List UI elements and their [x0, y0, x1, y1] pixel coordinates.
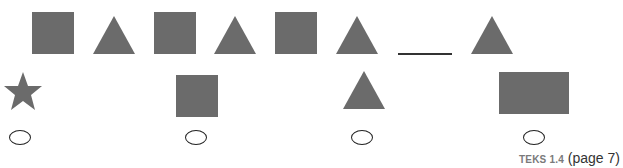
footer-reference: TEKS 1.4 (page 7) — [519, 150, 620, 166]
page-reference: (page 7) — [568, 150, 620, 166]
teks-standard: TEKS 1.4 — [519, 154, 564, 165]
pattern-triangle-4 — [471, 16, 513, 54]
choice-square-bubble[interactable] — [185, 130, 207, 145]
choice-star-icon — [2, 70, 44, 112]
choice-triangle-bubble[interactable] — [351, 130, 373, 145]
choice-rectangle-bubble[interactable] — [523, 130, 545, 145]
pattern-triangle-3 — [336, 16, 378, 54]
pattern-square-2 — [154, 12, 196, 54]
choice-square — [176, 75, 218, 117]
pattern-square-3 — [275, 12, 317, 54]
choice-triangle — [343, 71, 385, 109]
pattern-square-1 — [32, 12, 74, 54]
choice-star-bubble[interactable] — [9, 130, 31, 145]
choice-rectangle — [499, 72, 569, 114]
pattern-triangle-2 — [214, 16, 256, 54]
pattern-blank-line — [398, 53, 452, 55]
pattern-triangle-1 — [93, 16, 135, 54]
